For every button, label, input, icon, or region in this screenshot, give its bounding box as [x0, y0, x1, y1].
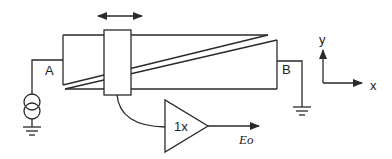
- axis-y-label: y: [319, 32, 326, 47]
- buffer-gain-label: 1x: [174, 119, 188, 134]
- slider-wiper: [104, 30, 165, 127]
- potentiometer-diagram: A B 1x Eo y x: [0, 0, 392, 159]
- axes-icon: [323, 50, 362, 83]
- ground-a-icon: [23, 127, 41, 135]
- terminal-b-label: B: [282, 62, 291, 77]
- current-source-icon: [24, 94, 40, 127]
- ground-b-icon: [293, 107, 311, 115]
- terminal-a-label: A: [45, 63, 54, 78]
- output-label: Eo: [238, 132, 254, 147]
- axis-x-label: x: [370, 78, 377, 93]
- resistive-element: [63, 35, 277, 89]
